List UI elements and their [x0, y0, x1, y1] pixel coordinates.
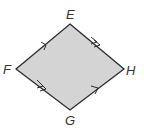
vertex-label-g: G [65, 113, 75, 128]
vertex-label-h: H [126, 63, 136, 78]
parallelogram-efgh [16, 24, 124, 110]
vertex-label-e: E [66, 7, 75, 22]
vertex-label-f: F [3, 62, 12, 77]
parallelogram-diagram: E F H G [0, 0, 144, 128]
